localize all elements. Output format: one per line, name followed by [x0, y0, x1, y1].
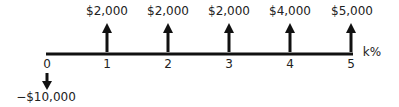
arrow-up-icon: [285, 23, 295, 52]
arrow-up-icon: [102, 23, 112, 52]
cash-flow-label: $2,000: [86, 4, 128, 18]
cash-flow-label: $2,000: [208, 4, 250, 18]
period-tick: 5: [347, 57, 355, 71]
cash-flow-label: $5,000: [331, 4, 373, 18]
cash-flow-label: $4,000: [269, 4, 311, 18]
period-tick: 4: [286, 57, 294, 71]
period-tick: 3: [225, 57, 233, 71]
cash-flow-label: −$10,000: [16, 90, 76, 104]
arrow-up-icon: [163, 23, 173, 52]
cash-flow-label: $2,000: [147, 4, 189, 18]
rate-label: k%: [363, 45, 381, 59]
arrow-up-icon: [224, 23, 234, 52]
period-tick: 1: [103, 57, 111, 71]
arrow-down-icon: [42, 73, 52, 90]
period-tick: 0: [43, 57, 51, 71]
arrow-up-icon: [346, 23, 356, 52]
period-tick: 2: [164, 57, 172, 71]
